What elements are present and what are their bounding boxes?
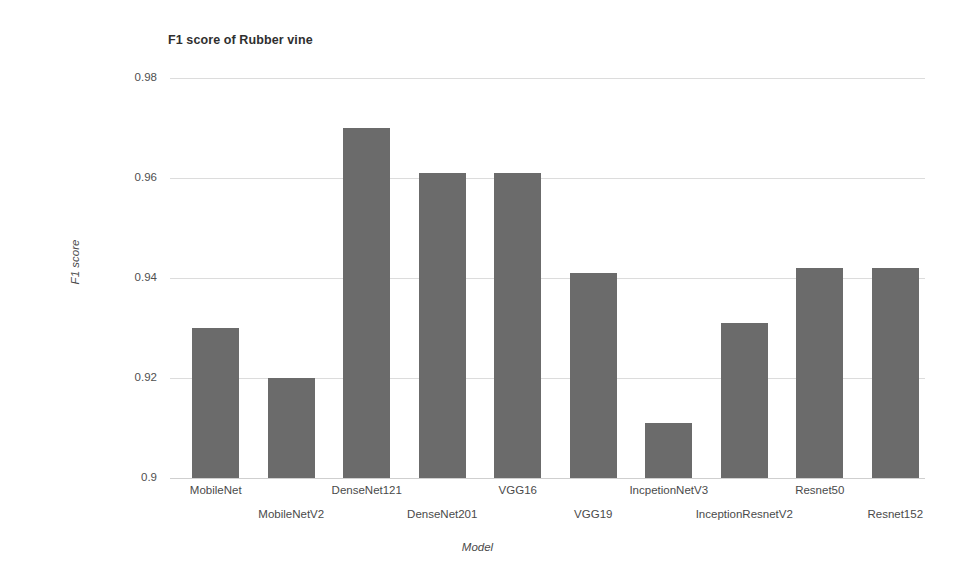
x-tick-label: MobileNet (190, 484, 242, 496)
bar-chart: F1 score of Rubber vine F1 score Model 0… (0, 0, 955, 574)
x-tick-label: VGG19 (574, 508, 612, 520)
bar (192, 328, 239, 478)
y-tick-label: 0.96 (105, 171, 157, 183)
x-tick-label: VGG16 (499, 484, 537, 496)
x-tick-label: MobileNetV2 (258, 508, 324, 520)
bar (872, 268, 919, 478)
y-tick-label: 0.92 (105, 371, 157, 383)
bar (419, 173, 466, 478)
gridline (170, 78, 925, 79)
bar (721, 323, 768, 478)
bar (494, 173, 541, 478)
y-tick-label: 0.98 (105, 71, 157, 83)
x-axis-title: Model (0, 541, 955, 553)
gridline (170, 178, 925, 179)
y-tick-label: 0.94 (105, 271, 157, 283)
x-tick-label: Resnet50 (795, 484, 844, 496)
x-tick-label: DenseNet201 (407, 508, 477, 520)
chart-title: F1 score of Rubber vine (168, 33, 313, 47)
plot-area (170, 78, 925, 478)
gridline (170, 478, 925, 479)
bar (645, 423, 692, 478)
x-tick-label: Resnet152 (867, 508, 923, 520)
x-tick-label: DenseNet121 (332, 484, 402, 496)
bar (343, 128, 390, 478)
y-tick-label: 0.9 (105, 471, 157, 483)
y-axis-title: F1 score (69, 202, 81, 322)
x-tick-label: InceptionResnetV2 (696, 508, 793, 520)
bar (268, 378, 315, 478)
bar (796, 268, 843, 478)
bar (570, 273, 617, 478)
x-tick-label: IncpetionNetV3 (629, 484, 708, 496)
